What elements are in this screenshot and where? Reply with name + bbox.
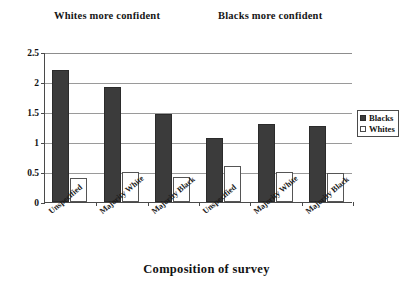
bar-blacks: [309, 126, 326, 202]
bar-whites: [122, 172, 139, 202]
bar-blacks: [206, 138, 223, 202]
bar-whites: [224, 166, 241, 202]
bar-blacks: [104, 87, 121, 202]
caption-whites-more-confident: Whites more confident: [54, 10, 160, 21]
x-axis-tick: [353, 202, 354, 206]
bar-blacks: [258, 124, 275, 202]
plot-area: 00.511.522.5: [44, 53, 352, 203]
x-axis-tick: [302, 202, 303, 206]
bar-blacks: [52, 70, 69, 202]
legend-swatch-icon: [360, 115, 366, 121]
bar-whites: [70, 178, 87, 202]
legend-item: Blacks: [360, 112, 395, 123]
x-axis-tick: [148, 202, 149, 206]
y-axis-tick: [41, 203, 45, 204]
chart-legend: BlacksWhites: [357, 110, 399, 137]
bar-whites: [327, 173, 344, 202]
bar-whites: [276, 172, 293, 202]
y-axis-tick-label: 0.5: [27, 168, 39, 178]
x-axis-tick: [250, 202, 251, 206]
y-axis-tick-label: 2.5: [27, 48, 39, 58]
legend-swatch-icon: [360, 126, 366, 132]
legend-item-label: Whites: [369, 124, 395, 134]
legend-item: Whites: [360, 123, 395, 134]
x-axis-title: Composition of survey: [0, 262, 413, 277]
y-axis-tick-label: 1.5: [27, 108, 39, 118]
y-axis-tick-label: 2: [34, 78, 39, 88]
bar-whites: [173, 177, 190, 202]
y-axis-tick-label: 1: [34, 138, 39, 148]
caption-blacks-more-confident: Blacks more confident: [218, 10, 322, 21]
bars-layer: [45, 53, 352, 202]
legend-item-label: Blacks: [369, 113, 393, 123]
chart-group-captions: Whites more confident Blacks more confid…: [0, 8, 413, 30]
bar-blacks: [155, 114, 172, 202]
y-axis-tick-label: 0: [34, 198, 39, 208]
x-axis-tick: [199, 202, 200, 206]
x-axis-tick: [96, 202, 97, 206]
